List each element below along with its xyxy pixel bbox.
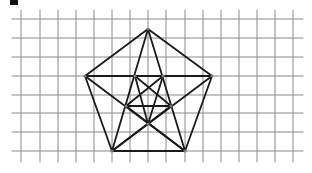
vertex-dot	[83, 74, 86, 77]
vertex-dot	[146, 122, 149, 125]
vertex-dot	[183, 149, 186, 152]
vertex-dot	[124, 104, 127, 107]
vertex-dot	[110, 149, 113, 152]
vertex-dot	[210, 74, 213, 77]
pentagon-edge	[148, 29, 212, 76]
vertex-dot	[161, 74, 164, 77]
pentagon-diagram	[0, 0, 312, 173]
grid-lines	[12, 10, 303, 162]
vertex-dot	[169, 104, 172, 107]
vertex-dot	[146, 27, 149, 30]
vertex-dot	[133, 74, 136, 77]
